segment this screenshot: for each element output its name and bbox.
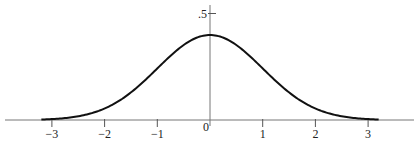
- x-axis-ticks: −3−2−10123: [46, 119, 372, 141]
- x-tick-label: −2: [98, 127, 111, 141]
- x-tick-label: 0: [203, 120, 209, 134]
- x-tick-label: −1: [151, 127, 164, 141]
- x-tick-label: −3: [46, 127, 59, 141]
- y-axis-ticks: .5: [198, 7, 216, 21]
- x-tick-label: 1: [260, 127, 266, 141]
- normal-distribution-chart: −3−2−10123 .5: [0, 0, 416, 148]
- x-tick-label: 2: [312, 127, 318, 141]
- x-tick-label: 3: [365, 127, 371, 141]
- y-tick-label: .5: [198, 7, 207, 21]
